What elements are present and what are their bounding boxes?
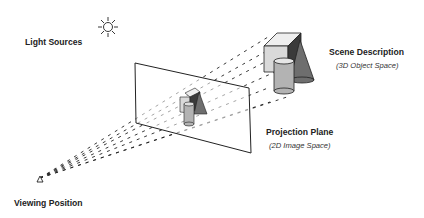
sun-icon <box>98 17 118 37</box>
projection-plane-label: Projection Plane <box>266 127 333 137</box>
scene-description-label: Scene Description <box>329 47 404 57</box>
viewing-position-label: Viewing Position <box>14 198 83 208</box>
rendering-pipeline-diagram <box>0 0 424 218</box>
cylinder <box>274 61 294 91</box>
light-sources-label: Light Sources <box>25 37 82 47</box>
projection-plane-sublabel: (2D Image Space) <box>269 141 331 150</box>
scene-description-sublabel: (3D Object Space) <box>336 61 398 70</box>
scene-objects <box>264 33 314 94</box>
